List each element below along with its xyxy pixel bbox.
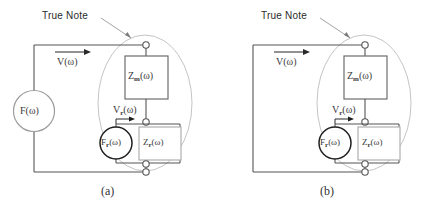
panel-b-caption: (b) xyxy=(320,184,334,199)
vr-omega-arrow-head xyxy=(348,117,354,122)
zm-tail: (ω) xyxy=(359,70,372,81)
vr-omega-label: Vr(ω) xyxy=(113,104,137,117)
bottom-terminal-node-upper xyxy=(362,161,368,167)
panel-a-caption: (a) xyxy=(101,184,114,199)
source-fr-omega-label: Fr(ω) xyxy=(320,137,340,149)
figure-canvas: True Note V(ω) F(ω) Zm(ω) Vr(ω) Fr(ω) Zr… xyxy=(0,0,438,210)
fr-tail: (ω) xyxy=(328,137,340,147)
true-note-label: True Note xyxy=(42,10,88,21)
source-fr-omega-label: Fr(ω) xyxy=(101,137,121,149)
true-note-leader-arrow xyxy=(344,32,350,38)
vr-tail: (ω) xyxy=(342,104,355,115)
true-note-label: True Note xyxy=(261,10,307,21)
top-terminal-node xyxy=(362,42,368,48)
vr-omega-label: Vr(ω) xyxy=(332,104,356,117)
panel-a: True Note V(ω) F(ω) Zm(ω) Vr(ω) Fr(ω) Zr… xyxy=(0,0,219,210)
bottom-terminal-node-upper xyxy=(143,161,149,167)
impedance-zr-label: Zr(ω) xyxy=(143,137,164,149)
impedance-zm-label: Zm(ω) xyxy=(347,70,372,83)
panel-b-circuit xyxy=(219,0,438,210)
bottom-terminal-node-lower xyxy=(362,169,368,175)
vr-tail: (ω) xyxy=(123,104,136,115)
top-terminal-node xyxy=(143,42,149,48)
v-omega-label: V(ω) xyxy=(57,56,77,67)
bottom-terminal-node-lower xyxy=(143,169,149,175)
impedance-zr-label: Zr(ω) xyxy=(362,137,383,149)
vr-omega-arrow-head xyxy=(129,117,135,122)
source-f-omega-label: F(ω) xyxy=(20,105,39,116)
impedance-zm-label: Zm(ω) xyxy=(128,70,153,83)
v-omega-arrow-head xyxy=(303,49,310,55)
panel-b: True Note V(ω) Zm(ω) Vr(ω) Fr(ω) Zr(ω) (… xyxy=(219,0,438,210)
true-note-leader-arrow xyxy=(125,32,131,38)
fr-tail: (ω) xyxy=(109,137,121,147)
v-omega-label: V(ω) xyxy=(276,56,296,67)
zr-tail: (ω) xyxy=(371,137,383,147)
zm-tail: (ω) xyxy=(140,70,153,81)
zr-tail: (ω) xyxy=(152,137,164,147)
v-omega-arrow-head xyxy=(84,49,91,55)
